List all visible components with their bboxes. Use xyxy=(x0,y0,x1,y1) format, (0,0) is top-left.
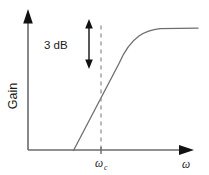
x-axis-arrowhead-icon xyxy=(179,145,194,155)
cutoff-frequency-label-symbol: ω xyxy=(95,157,103,169)
x-axis-label: ω xyxy=(182,158,190,170)
gain-vs-frequency-figure: 3 dB Gain ω c ω xyxy=(0,0,209,175)
gain-response-curve xyxy=(74,28,199,150)
y-axis-label: Gain xyxy=(6,83,20,109)
three-db-arrow-down-head-icon xyxy=(85,60,93,70)
figure-canvas: 3 dB Gain ω c ω xyxy=(0,0,209,175)
y-axis-arrowhead-icon xyxy=(23,9,33,24)
three-db-label: 3 dB xyxy=(44,39,68,51)
three-db-arrow-up-head-icon xyxy=(85,19,93,29)
cutoff-frequency-label-subscript: c xyxy=(104,163,108,172)
